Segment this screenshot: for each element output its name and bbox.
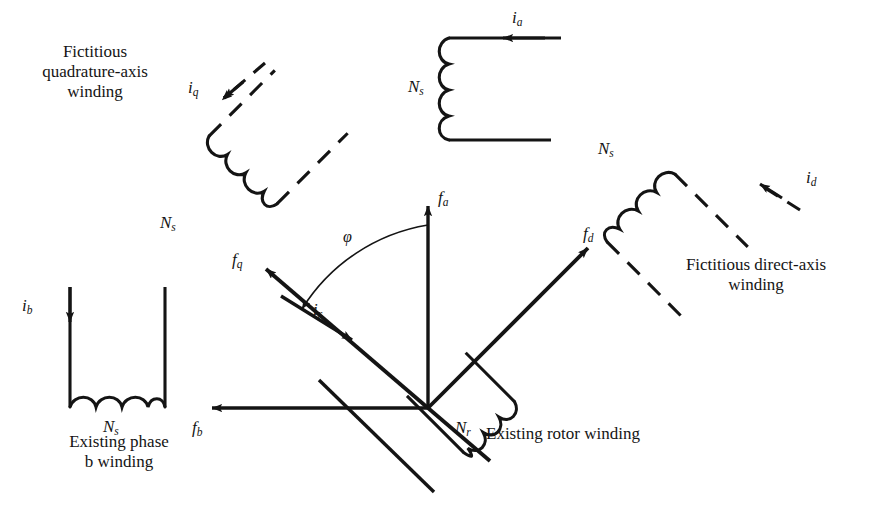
label-i-r: ir: [313, 300, 322, 322]
direct-axis-winding-shape: [600, 167, 753, 320]
label-N-s-b: Ns: [103, 417, 119, 439]
label-f-b-sub: b: [197, 426, 203, 438]
label-i-b: ib: [22, 296, 32, 318]
label-N-s-d-base: N: [598, 139, 609, 158]
label-N-s-q-sub: s: [171, 221, 175, 233]
caption-quadrature-axis: Fictitious quadrature-axis winding: [12, 42, 178, 102]
label-N-r-sub: r: [466, 426, 470, 438]
label-i-a-sub: a: [517, 16, 523, 28]
quadrature-axis-winding-shape: [202, 65, 347, 210]
i-d-arrowhead: [760, 184, 782, 198]
label-phi-angle: φ: [343, 228, 352, 247]
label-i-q-sub: q: [193, 86, 199, 98]
caption-phase-b: Existing phase b winding: [28, 432, 210, 472]
figure-canvas: Fictitious quadrature-axis winding Ficti…: [0, 0, 881, 525]
label-N-s-b-base: N: [103, 417, 114, 436]
label-N-s-top: Ns: [408, 77, 424, 99]
f-d-vector-line: [428, 248, 588, 408]
label-N-r: Nr: [455, 418, 471, 440]
i-q-arrowhead: [224, 82, 243, 98]
label-f-q: fq: [232, 250, 242, 272]
caption-direct-axis: Fictitious direct-axis winding: [640, 255, 872, 295]
label-f-q-sub: q: [237, 258, 243, 270]
label-f-d: fd: [583, 224, 593, 246]
label-f-a-sub: a: [443, 196, 449, 208]
label-N-r-base: N: [455, 418, 466, 437]
label-N-s-d: Ns: [598, 139, 614, 161]
caption-rotor: Existing rotor winding: [486, 424, 716, 444]
label-N-s-q-base: N: [160, 213, 171, 232]
label-i-d-sub: d: [811, 176, 817, 188]
label-i-b-sub: b: [27, 304, 33, 316]
label-f-b: fb: [192, 418, 202, 440]
label-i-r-sub: r: [318, 308, 322, 320]
phi-angle-arc: [302, 225, 428, 309]
label-N-s-q: Ns: [160, 213, 176, 235]
phase-a-winding-shape: [439, 38, 551, 140]
label-N-s-d-sub: s: [609, 147, 613, 159]
label-i-d: id: [806, 168, 816, 190]
label-f-d-sub: d: [588, 232, 594, 244]
phase-b-winding-shape: [70, 287, 165, 407]
label-N-s-top-base: N: [408, 77, 419, 96]
label-i-q: iq: [188, 78, 198, 100]
label-i-a: ia: [512, 8, 522, 30]
label-f-a: fa: [438, 188, 448, 210]
label-N-s-b-sub: s: [114, 425, 118, 437]
label-N-s-top-sub: s: [419, 85, 423, 97]
